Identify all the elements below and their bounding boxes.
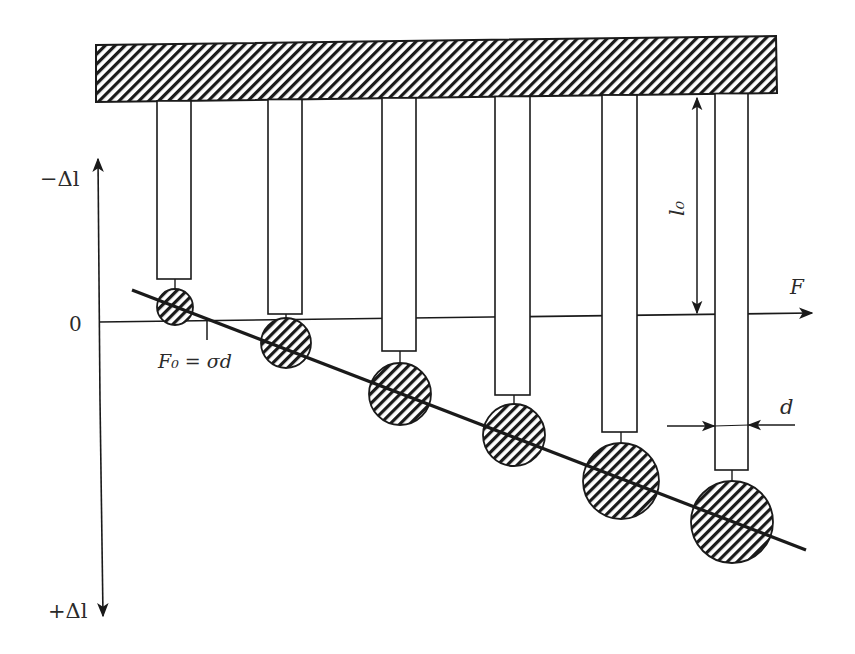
elongation-axis-up (98, 159, 100, 400)
elongation-axis-down (100, 400, 103, 616)
trend-line (132, 290, 806, 550)
force-axis-label: F (789, 275, 805, 299)
origin-label: 0 (69, 312, 82, 336)
rod-elongation-diagram: −Δl +Δl 0 F F₀ = σd l₀ d (0, 0, 855, 654)
intercept-label: F₀ = σd (157, 350, 232, 372)
rods-group (157, 94, 773, 563)
support-beam (96, 36, 777, 102)
rod-1 (157, 101, 191, 279)
rod-diameter-label: d (780, 395, 793, 419)
rod-2 (268, 99, 302, 314)
rod-6 (715, 94, 748, 470)
rod-5 (602, 95, 637, 432)
rod-length-label: l₀ (665, 200, 689, 216)
axis-label-positive-delta-l: +Δl (48, 599, 88, 623)
rod-3 (382, 98, 416, 351)
sphere-5 (583, 443, 659, 519)
rod-4 (495, 96, 530, 395)
axis-label-negative-delta-l: −Δl (40, 167, 80, 191)
sphere-4 (483, 404, 545, 466)
